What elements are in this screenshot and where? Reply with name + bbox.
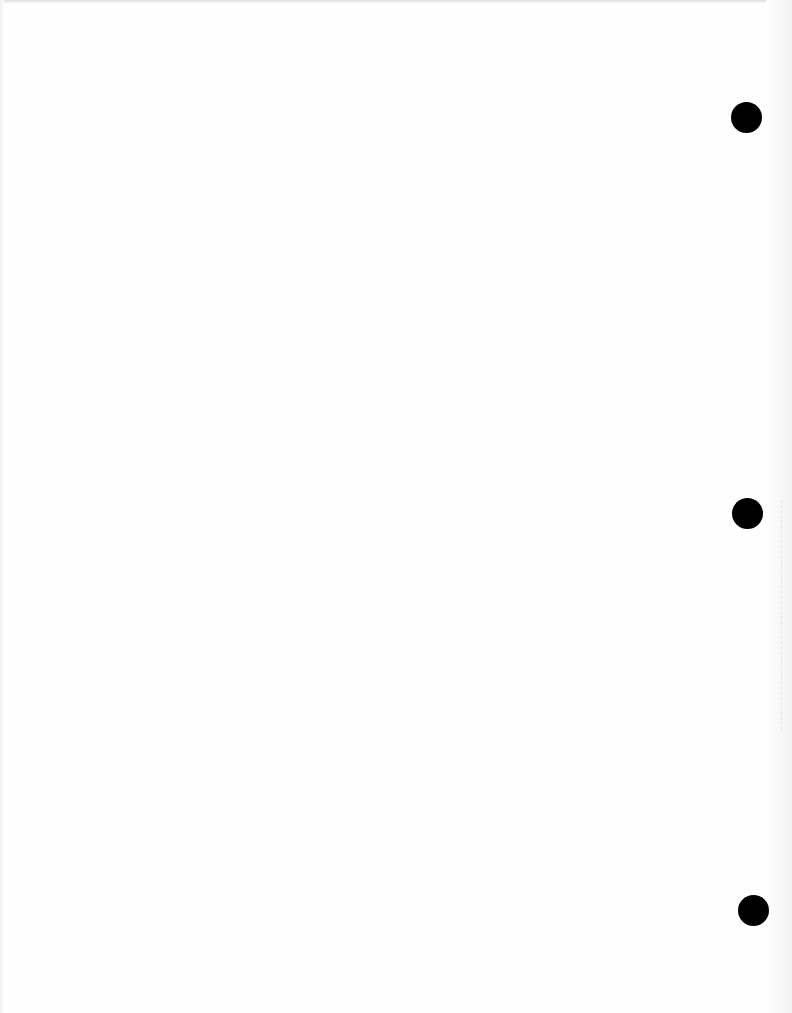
blank-page: [0, 0, 792, 1013]
punch-hole-top: [731, 102, 762, 133]
punch-hole-bottom: [738, 895, 769, 926]
punch-hole-middle: [732, 498, 763, 529]
page-top-edge-shadow: [0, 0, 792, 3]
page-left-edge-shadow: [0, 0, 4, 1013]
fold-line: [781, 500, 782, 730]
page-right-edge-shadow: [766, 0, 792, 1013]
